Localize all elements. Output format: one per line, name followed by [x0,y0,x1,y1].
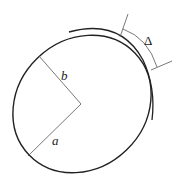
semi-major-axis-line [28,104,81,156]
semi-minor-axis-line [39,56,81,104]
label-b: b [61,68,68,83]
label-delta: Δ [144,33,152,48]
ellipse-diagram: b a Δ [0,0,182,181]
label-a: a [52,133,59,148]
extension-line-1 [120,14,128,37]
extension-line-2 [151,61,172,70]
outer-arc [69,29,153,121]
